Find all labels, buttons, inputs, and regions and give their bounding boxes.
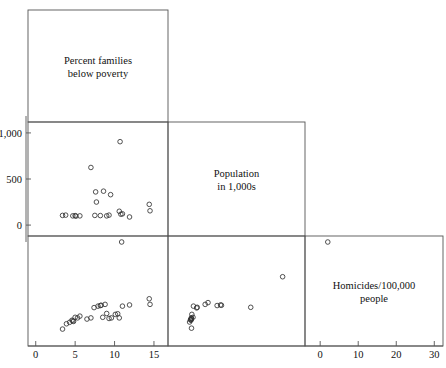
diagonal-labels: Percent familiesbelow povertyPopulationi… [64,55,415,304]
panel-r3-c2 [168,236,305,346]
xtick-label-homicides: 10 [353,349,364,360]
scatterplot-matrix: 1,00050000510150102030 Percent familiesb… [0,0,446,368]
data-point [94,200,99,205]
data-point [280,274,285,279]
data-point [98,213,103,218]
data-point [104,311,109,316]
data-point [189,326,194,331]
ytick-label: 500 [6,174,22,185]
data-point [89,165,94,170]
xtick-label-poverty: 5 [73,349,78,360]
data-point [60,327,65,332]
ytick-label: 1,000 [0,128,22,139]
panel-r1-c1 [28,10,168,122]
xtick-label-homicides: 30 [429,349,440,360]
xtick-label-homicides: 0 [318,349,323,360]
data-point [148,302,153,307]
panel-r3-c1 [28,236,168,346]
data-point-outlier [119,240,124,245]
diagonal-label-homicides: Homicides/100,000people [333,280,416,304]
data-point [63,213,68,218]
data-point [127,215,132,220]
data-point [127,303,132,308]
panel-r2-c1 [28,122,168,236]
data-point [117,316,122,321]
data-point [147,202,152,207]
xtick-label-poverty: 10 [109,349,120,360]
diagonal-label-poverty: Percent familiesbelow poverty [64,55,132,79]
axes: 1,00050000510150102030 [0,116,443,360]
xtick-label-homicides: 20 [391,349,402,360]
diagonal-label-population: Populationin 1,000s [214,168,260,192]
data-point [101,189,106,194]
panel-r3-c3 [305,236,443,346]
data-point [100,315,105,320]
data-point [248,305,253,310]
data-points [60,139,330,331]
data-point [93,213,98,218]
data-point [108,192,113,197]
ytick-label: 0 [17,220,22,231]
xtick-label-poverty: 0 [33,349,38,360]
data-point [120,304,125,309]
data-point [148,209,153,214]
data-point-outlier [325,240,330,245]
xtick-label-poverty: 15 [149,349,160,360]
data-point [147,296,152,301]
panel-r2-c2 [168,122,305,236]
data-point [118,139,123,144]
data-point [93,190,98,195]
